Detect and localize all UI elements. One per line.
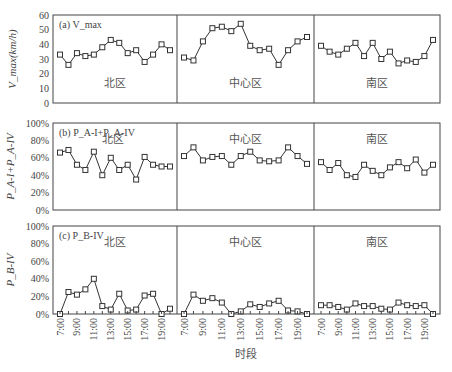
data-marker: [66, 62, 71, 67]
data-marker: [379, 173, 384, 178]
x-tick-label: 9:00: [197, 318, 208, 336]
data-marker: [200, 298, 205, 303]
data-marker: [370, 40, 375, 45]
data-marker: [125, 162, 130, 167]
data-marker: [276, 62, 281, 67]
data-marker: [267, 159, 272, 164]
data-marker: [159, 42, 164, 47]
data-marker: [58, 52, 63, 57]
y-tick-label: 40%: [31, 273, 49, 284]
x-tick-label: 7:00: [179, 318, 190, 336]
y-tick-label: 0: [44, 98, 49, 109]
data-marker: [200, 39, 205, 44]
region-label: 中心区: [229, 133, 262, 146]
x-tick-label: 13:00: [235, 318, 246, 341]
y-tick-label: 100%: [26, 221, 49, 232]
x-axis-label: 时段: [235, 347, 257, 361]
y-tick-label: 100%: [26, 118, 49, 129]
data-marker: [396, 160, 401, 165]
data-marker: [238, 21, 243, 26]
data-marker: [379, 57, 384, 62]
data-marker: [74, 162, 79, 167]
data-marker: [248, 149, 253, 154]
data-marker: [295, 39, 300, 44]
data-marker: [74, 51, 79, 56]
x-tick-label: 9:00: [71, 318, 82, 336]
data-marker: [219, 300, 224, 305]
data-marker: [276, 158, 281, 163]
data-marker: [134, 48, 139, 53]
data-marker: [151, 291, 156, 296]
data-marker: [362, 54, 367, 59]
data-marker: [286, 145, 291, 150]
data-marker: [353, 301, 358, 306]
panel-c: 0%20%40%60%80%100%P_B-IV(c) P_B-IV北区7:00…: [4, 221, 440, 341]
y-tick-label: 10: [39, 83, 49, 94]
data-marker: [431, 162, 436, 167]
x-tick-label: 19:00: [292, 318, 303, 341]
data-marker: [159, 164, 164, 169]
data-marker: [100, 45, 105, 50]
y-tick-label: 80%: [31, 238, 49, 249]
data-marker: [344, 46, 349, 51]
data-marker: [168, 306, 173, 311]
data-marker: [276, 298, 281, 303]
x-tick-label: 11:00: [216, 318, 227, 340]
data-marker: [353, 174, 358, 179]
y-axis-label: P_A-I+P_A-IV: [4, 132, 16, 201]
data-marker: [58, 150, 63, 155]
y-tick-label: 60: [39, 10, 49, 21]
data-marker: [219, 154, 224, 159]
data-marker: [257, 158, 262, 163]
data-marker: [151, 162, 156, 167]
data-marker: [66, 147, 71, 152]
y-tick-label: 80%: [31, 135, 49, 146]
data-marker: [168, 164, 173, 169]
data-marker: [200, 158, 205, 163]
data-marker: [229, 29, 234, 34]
data-marker: [142, 59, 147, 64]
y-tick-label: 0%: [36, 309, 49, 320]
data-marker: [210, 154, 215, 159]
region-label: 北区: [104, 236, 126, 249]
data-marker: [370, 168, 375, 173]
y-tick-label: 60%: [31, 256, 49, 267]
x-tick-label: 15:00: [254, 318, 265, 341]
data-marker: [191, 145, 196, 150]
panel-b: 0%20%40%60%80%100%P_A-I+P_A-IV(b) P_A-I+…: [4, 118, 440, 216]
data-marker: [422, 170, 427, 175]
data-marker: [142, 293, 147, 298]
x-tick-label: 19:00: [156, 318, 167, 341]
data-marker: [83, 54, 88, 59]
data-marker: [405, 166, 410, 171]
panel-title: (a) V_max: [59, 19, 102, 31]
x-tick-label: 17:00: [139, 318, 150, 341]
x-tick-label: 17:00: [402, 318, 413, 341]
data-marker: [305, 161, 310, 166]
data-marker: [257, 304, 262, 309]
chart-figure: 0102030405060V_max(km/h)(a) V_max北区中心区南区…: [0, 0, 452, 372]
data-marker: [396, 300, 401, 305]
data-marker: [387, 49, 392, 54]
data-marker: [83, 167, 88, 172]
data-marker: [108, 155, 113, 160]
y-axis-label: V_max(km/h): [6, 29, 19, 89]
data-marker: [405, 303, 410, 308]
panel-title: (b) P_A-I+P_A-IV: [59, 127, 136, 139]
data-marker: [405, 58, 410, 63]
data-marker: [117, 40, 122, 45]
data-marker: [336, 52, 341, 57]
data-marker: [327, 303, 332, 308]
panel-title: (c) P_B-IV: [59, 230, 104, 242]
data-marker: [91, 149, 96, 154]
region-label: 北区: [102, 133, 124, 146]
x-tick-label: 17:00: [273, 318, 284, 341]
y-tick-label: 30: [39, 54, 49, 65]
data-marker: [191, 292, 196, 297]
data-marker: [125, 51, 130, 56]
region-label: 北区: [104, 77, 126, 90]
data-marker: [74, 292, 79, 297]
data-marker: [413, 304, 418, 309]
data-marker: [413, 59, 418, 64]
data-marker: [238, 154, 243, 159]
